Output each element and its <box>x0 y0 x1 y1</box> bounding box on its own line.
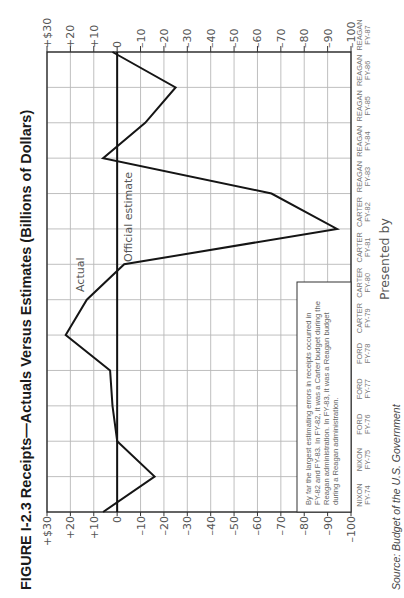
value-tick-label: 0 <box>111 41 124 48</box>
fiscal-year-label: FY-80 <box>363 273 372 292</box>
actual-label: Actual <box>74 258 87 292</box>
value-tick-label: –50 <box>228 29 241 49</box>
fiscal-year-label: FY-81 <box>363 238 372 257</box>
fiscal-year-label: FY-74 <box>363 485 372 504</box>
fiscal-year-label: FY-83 <box>363 167 372 186</box>
value-tick-label: –30 <box>181 516 194 536</box>
value-tick-label: –40 <box>205 516 218 536</box>
actual-line <box>66 52 337 512</box>
value-tick-label: +20 <box>64 516 77 539</box>
value-tick-label: –10 <box>135 516 148 536</box>
value-tick-label: –70 <box>275 516 288 536</box>
fiscal-year-label: FY-82 <box>363 202 372 221</box>
value-tick-label: –20 <box>158 29 171 49</box>
value-tick-label: –40 <box>205 29 218 49</box>
value-tick-label: +10 <box>88 25 101 48</box>
value-tick-label: –60 <box>251 29 264 49</box>
value-tick-label: –70 <box>275 29 288 49</box>
presented-by: Presented by <box>377 218 392 300</box>
value-tick-label: +$30 <box>41 516 54 546</box>
value-tick-label: +10 <box>88 516 101 539</box>
fiscal-year-label: FY-77 <box>363 379 372 398</box>
fiscal-year-label: FY-76 <box>363 415 372 434</box>
receipts-chart: FIGURE I-2.3 Receipts—Actuals Versus Est… <box>0 0 404 598</box>
value-tick-label: –30 <box>181 29 194 49</box>
value-tick-label: –100 <box>345 516 358 543</box>
fiscal-year-label: FY-79 <box>363 308 372 327</box>
value-tick-label: –80 <box>298 29 311 49</box>
value-tick-label: –20 <box>158 516 171 536</box>
annotation-line: By far the largest estimating errors in … <box>304 313 313 505</box>
fiscal-year-label: FY-75 <box>363 450 372 469</box>
value-axis-bottom: +$30+20+100–10–20–30–40–50–60–70–80–90–1… <box>41 512 358 546</box>
value-axis-top: +$30+20+100–10–20–30–40–50–60–70–80–90–1… <box>41 18 358 52</box>
fiscal-year-label: FY-85 <box>363 96 372 115</box>
fiscal-year-label: FY-86 <box>363 61 372 80</box>
annotation-line: during a Reagan administration. <box>331 397 340 505</box>
source-note: Source: Budget of the U.S. Government <box>390 403 402 590</box>
value-tick-label: –90 <box>322 516 335 536</box>
value-tick-label: –10 <box>135 29 148 49</box>
value-tick-label: –50 <box>228 516 241 536</box>
figure-title: FIGURE I-2.3 Receipts—Actuals Versus Est… <box>18 110 34 590</box>
value-tick-label: –80 <box>298 516 311 536</box>
value-tick-label: –60 <box>251 516 264 536</box>
annotation-line: FY-82 and FY-83. In FY-82, it was a Cart… <box>313 301 322 505</box>
annotation-line: Reagan administration. In FY-83, it was … <box>322 311 331 505</box>
value-tick-label: +$30 <box>41 18 54 48</box>
fiscal-year-axis: NIXONFY-74NIXONFY-75FORDFY-76FORDFY-77FO… <box>355 19 372 506</box>
value-tick-label: 0 <box>111 516 124 523</box>
official-estimate-label: Official estimate <box>122 172 135 262</box>
value-tick-label: –90 <box>322 29 335 49</box>
fiscal-year-label: FY-84 <box>363 131 372 150</box>
value-tick-label: +20 <box>64 25 77 48</box>
fiscal-year-label: FY-78 <box>363 344 372 363</box>
fiscal-year-label: FY-87 <box>363 25 372 44</box>
